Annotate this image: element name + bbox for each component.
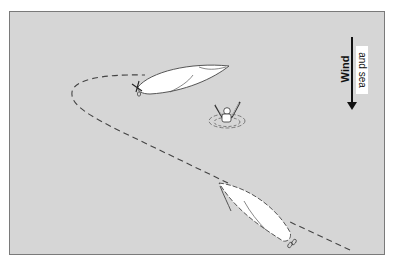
course-path (72, 75, 350, 250)
boat-lower-icon (219, 183, 297, 248)
person-overboard-icon (209, 102, 245, 128)
sea-label: and sea (356, 46, 368, 94)
man-overboard-diagram (0, 0, 395, 262)
wind-label: Wind (338, 54, 352, 84)
boat-upper-icon (132, 65, 229, 96)
